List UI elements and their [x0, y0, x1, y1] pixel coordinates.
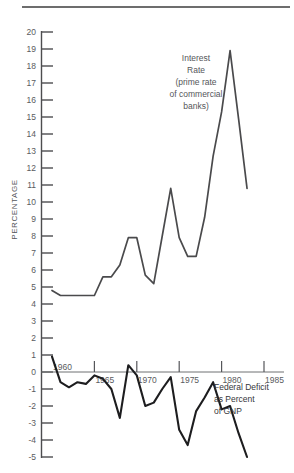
y-tick-label: 19 — [27, 44, 37, 54]
y-tick-label: 6 — [31, 265, 36, 275]
chart-figure: PERCENTAGE 20191817161514131211109876543… — [0, 0, 294, 473]
annotation-line: as Percent — [214, 394, 255, 404]
y-tick-label: 0 — [31, 367, 36, 377]
y-tick-label: 12 — [27, 163, 37, 173]
annotation-line: banks) — [183, 101, 209, 111]
y-tick-label: -5 — [28, 452, 36, 462]
federal-deficit-annotation: Federal Deficitas Percentof GNP — [214, 382, 269, 416]
y-tick-label: -1 — [28, 384, 36, 394]
y-tick-label: 7 — [31, 248, 36, 258]
y-tick-label: 2 — [31, 333, 36, 343]
y-tick-label: 15 — [27, 112, 37, 122]
y-tick-label: 11 — [27, 180, 36, 190]
annotation-line: (prime rate — [175, 77, 216, 87]
annotation-line: of commercial — [170, 89, 223, 99]
y-tick-label: 17 — [27, 78, 37, 88]
y-tick-label: -3 — [28, 418, 36, 428]
interest-rate-annotation: InterestRate(prime rateof commercialbank… — [170, 53, 223, 111]
y-tick-label: 5 — [31, 282, 36, 292]
y-tick-label: -2 — [28, 401, 36, 411]
y-tick-label: 10 — [27, 197, 37, 207]
y-tick-label: -4 — [28, 435, 36, 445]
annotation-line: Federal Deficit — [214, 382, 269, 392]
y-tick-label: 4 — [31, 299, 36, 309]
y-tick-label: 16 — [27, 95, 37, 105]
y-axis-ticks: 20191817161514131211109876543210-1-2-3-4… — [27, 27, 53, 462]
y-tick-label: 1 — [31, 350, 36, 360]
annotation-line: of GNP — [214, 406, 242, 416]
y-tick-label: 8 — [31, 231, 36, 241]
y-tick-label: 14 — [27, 129, 37, 139]
y-tick-label: 13 — [27, 146, 37, 156]
interest-rate-line — [52, 51, 247, 296]
y-tick-label: 18 — [27, 61, 37, 71]
annotation-line: Interest — [182, 53, 211, 63]
y-tick-label: 20 — [27, 27, 37, 37]
y-tick-label: 9 — [31, 214, 36, 224]
x-tick-label: 1975 — [180, 375, 199, 385]
y-tick-label: 3 — [31, 316, 36, 326]
x-tick-label: 1970 — [138, 375, 157, 385]
chart-canvas: 20191817161514131211109876543210-1-2-3-4… — [0, 0, 294, 473]
annotation-line: Rate — [187, 65, 205, 75]
